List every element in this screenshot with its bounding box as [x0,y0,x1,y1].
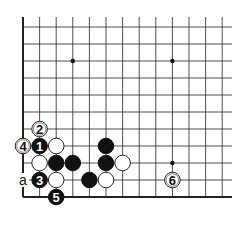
black-stone [48,155,64,171]
white-stone [32,155,48,171]
point-marker-a: a [19,172,27,188]
black-stone [65,155,81,171]
go-board: a214356 [0,0,251,227]
move-number-4: 4 [19,139,27,154]
black-stone [82,172,98,188]
move-number-3: 3 [36,173,43,188]
star-point [170,59,174,63]
black-stone [98,155,114,171]
star-point [71,59,75,63]
white-stone [98,172,114,188]
move-number-1: 1 [36,139,43,154]
move-number-6: 6 [169,173,176,188]
star-point [170,161,174,165]
move-number-2: 2 [36,122,43,137]
white-stone [115,155,131,171]
move-number-5: 5 [53,190,60,205]
white-stone [48,138,64,154]
black-stone [98,138,114,154]
white-stone [48,172,64,188]
